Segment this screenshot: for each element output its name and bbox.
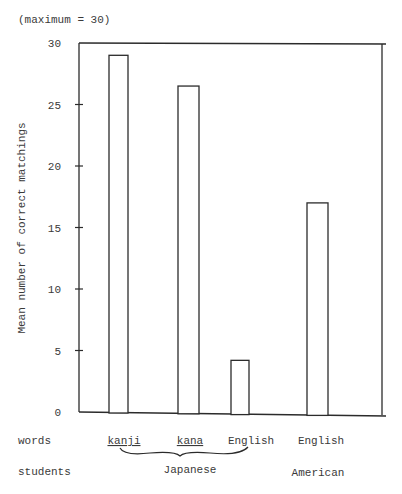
bar-chart: (maximum = 30) 051015202530 Mean number … bbox=[0, 0, 402, 494]
category-label-english: English bbox=[228, 435, 274, 447]
bar-english-2 bbox=[231, 360, 249, 414]
y-tick-label: 0 bbox=[54, 407, 61, 419]
group-label-american: American bbox=[292, 467, 345, 479]
y-axis-label: Mean number of correct matchings bbox=[16, 122, 28, 333]
category-label-kanji: kanji bbox=[107, 435, 140, 447]
group-labels: JapaneseAmerican bbox=[164, 464, 345, 479]
bar-kana-1 bbox=[178, 86, 199, 414]
japanese-group-brace bbox=[120, 447, 248, 456]
row-label-students: students bbox=[18, 466, 71, 478]
bars bbox=[109, 55, 328, 415]
y-ticks: 051015202530 bbox=[48, 38, 83, 419]
y-tick-label: 30 bbox=[48, 38, 61, 50]
category-label-kana: kana bbox=[177, 435, 204, 447]
bar-kanji-0 bbox=[109, 55, 128, 413]
bar-english-3 bbox=[307, 203, 328, 416]
maximum-annotation: (maximum = 30) bbox=[18, 14, 110, 26]
y-tick-label: 20 bbox=[48, 161, 61, 173]
category-labels: kanjikanaEnglishEnglish bbox=[107, 435, 344, 447]
y-tick-label: 10 bbox=[48, 284, 61, 296]
row-label-words: words bbox=[18, 435, 51, 447]
y-tick-label: 25 bbox=[48, 100, 61, 112]
group-label-japanese: Japanese bbox=[164, 464, 217, 476]
y-tick-label: 15 bbox=[48, 223, 61, 235]
y-tick-label: 5 bbox=[54, 346, 61, 358]
category-label-english: English bbox=[298, 435, 344, 447]
frame-top bbox=[79, 43, 386, 44]
